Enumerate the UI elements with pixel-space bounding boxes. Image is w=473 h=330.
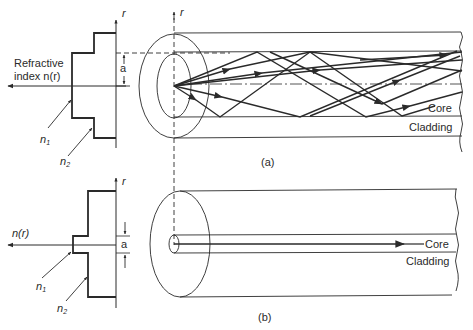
- panel-b: [8, 178, 459, 308]
- n1-pointer-a: [48, 100, 71, 128]
- r-label-a: r: [122, 7, 127, 19]
- core-label-a: Core: [428, 102, 452, 114]
- cladding-label-a: Cladding: [409, 121, 452, 133]
- index-profile-b: [73, 191, 116, 297]
- panel-a-labels: r r Refractive index n(r) a n1 n2 Core C…: [14, 6, 452, 168]
- panel-a: [8, 12, 463, 245]
- n1-label-a: n1: [40, 133, 50, 146]
- break-edge-b: [455, 189, 458, 291]
- caption-a: (a): [261, 156, 274, 168]
- core-top-a: [174, 51, 462, 52]
- cladding-top-a: [174, 32, 461, 33]
- core-bottom-a: [174, 116, 462, 117]
- n2-label-b: n2: [57, 302, 67, 315]
- caption-b: (b): [258, 311, 271, 323]
- profile-label-a-line2: index n(r): [14, 70, 60, 82]
- n2-pointer-a: [68, 128, 92, 156]
- core-bottom-b: [174, 252, 456, 253]
- n2-label-a: n2: [60, 155, 70, 168]
- fiber-diagram: r r Refractive index n(r) a n1 n2 Core C…: [0, 0, 473, 330]
- cladding-bottom-a: [174, 136, 462, 138]
- radius-label-b: a: [121, 238, 128, 250]
- n2-pointer-b: [66, 277, 87, 301]
- cladding-label-b: Cladding: [406, 255, 449, 267]
- cladding-top-b: [180, 189, 457, 191]
- cladding-bottom-b: [180, 295, 452, 297]
- n1-label-b: n1: [36, 280, 46, 293]
- panel-b-labels: r n(r) a n1 n2 Core Cladding (b): [12, 175, 449, 323]
- radius-label-a: a: [120, 62, 127, 74]
- profile-label-b: n(r): [12, 227, 29, 239]
- r-label-b: r: [122, 175, 127, 187]
- core-label-b: Core: [425, 238, 449, 250]
- profile-label-a-line1: Refractive: [14, 57, 64, 69]
- n1-pointer-b: [42, 252, 71, 278]
- core-top-b: [174, 234, 456, 235]
- r-label-a-fiber: r: [180, 6, 185, 18]
